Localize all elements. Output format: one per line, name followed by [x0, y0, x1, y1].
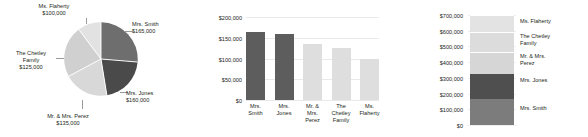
- bar-xlabel-chetley-family: The Chetley Family: [330, 103, 353, 125]
- bar-column-mr-mrs-perez: [303, 17, 322, 100]
- stack-ytick-700000: $700,000: [440, 13, 463, 19]
- pie-label-mrs-jones: Mrs. Jones $160,000: [126, 90, 186, 104]
- legend-label-mr-mrs-perez-line1: Mr. & Mrs.: [520, 53, 584, 60]
- bar-xlabel-chetley-family-line3: Family: [330, 117, 353, 124]
- legend-item-mrs-smith: Mrs. Smith: [520, 105, 584, 112]
- stack-segment-mrs-smith: [470, 99, 514, 125]
- pie-chart-panel: Ms. Flaherty $100,000 Mrs. Smith $165,00…: [0, 0, 196, 137]
- legend-label-chetley-family-line2: Family: [520, 40, 584, 47]
- bar-ytick-150000: $150,000: [219, 36, 242, 42]
- pie-label-mrs-jones-name: Mrs. Jones: [126, 90, 153, 96]
- bar-xlabel-mrs-smith: Mrs. Smith: [244, 103, 267, 125]
- legend-label-ms-flaherty: Ms. Flaherty: [520, 18, 584, 25]
- pie-label-chetley-family: The Chetley Family $125,000: [4, 50, 58, 72]
- stack-ytick-0: $0: [457, 123, 463, 129]
- pie-label-mr-mrs-perez: Mr. & Mrs. Perez $135,000: [32, 113, 104, 127]
- stack-ytick-100000: $100,000: [440, 107, 463, 113]
- bar-xlabel-mr-mrs-perez-line2: Mrs.: [301, 110, 324, 117]
- bar-xlabel-chetley-family-line2: Chetley: [330, 110, 353, 117]
- bar-chart-panel: $200,000 $150,000 $100,000 $50,000 $0: [196, 0, 392, 137]
- pie-label-chetley-family-line1: The Chetley: [16, 50, 46, 56]
- pie-label-mrs-jones-amount: $160,000: [126, 97, 186, 104]
- pie-label-mr-mrs-perez-name: Mr. & Mrs. Perez: [47, 113, 89, 119]
- bar-ms-flaherty: [360, 59, 379, 101]
- bar-xlabel-mr-mrs-perez-line1: Mr. &: [301, 103, 324, 110]
- bar-xlabel-mrs-jones-line2: Jones: [273, 110, 296, 117]
- bar-ytick-200000: $200,000: [219, 15, 242, 21]
- bar-xlabel-mrs-smith-line1: Mrs.: [244, 103, 267, 110]
- legend-item-ms-flaherty: Ms. Flaherty: [520, 18, 584, 25]
- bar-xlabel-chetley-family-line1: The: [330, 103, 353, 110]
- bar-xlabel-mrs-smith-line2: Smith: [244, 110, 267, 117]
- stacked-bar-column: [470, 15, 514, 125]
- bar-xlabel-mrs-jones-line1: Mrs.: [273, 103, 296, 110]
- legend-item-chetley-family: The Chetley Family: [520, 33, 584, 47]
- bar-xlabel-ms-flaherty-line2: Flaherty: [358, 110, 381, 117]
- stacked-bar-chart-panel: $700,000 $600,000 $500,000 $400,000 $300…: [392, 0, 588, 137]
- bar-column-mrs-jones: [275, 17, 294, 100]
- bar-chetley-family: [332, 48, 351, 100]
- bar-ytick-100000: $100,000: [219, 57, 242, 63]
- bar-column-ms-flaherty: [360, 17, 379, 100]
- legend-label-mrs-jones: Mrs. Jones: [520, 77, 584, 84]
- bar-x-axis-labels: Mrs. Smith Mrs. Jones Mr. & Mrs. Perez T…: [246, 103, 379, 125]
- stack-ytick-400000: $400,000: [440, 60, 463, 66]
- stacked-bar-legend: Ms. Flaherty The Chetley Family Mr. & Mr…: [520, 15, 584, 125]
- stack-ytick-200000: $200,000: [440, 92, 463, 98]
- pie-label-mrs-smith-name: Mrs. Smith: [132, 21, 159, 27]
- stack-segment-ms-flaherty: [470, 15, 514, 32]
- pie-label-ms-flaherty-amount: $100,000: [26, 10, 82, 17]
- pie-leader-flaherty: [86, 18, 87, 24]
- bar-gridline-0: $0: [246, 100, 379, 101]
- bar-column-chetley-family: [332, 17, 351, 100]
- bar-mrs-jones: [275, 34, 294, 100]
- stack-segment-chetley-family: [470, 32, 514, 53]
- stack-segment-mr-mrs-perez: [470, 52, 514, 74]
- pie-label-ms-flaherty: Ms. Flaherty $100,000: [26, 3, 82, 17]
- legend-label-mrs-smith: Mrs. Smith: [520, 105, 584, 112]
- stacked-bar-plot-area: $700,000 $600,000 $500,000 $400,000 $300…: [470, 15, 514, 125]
- pie-label-mrs-smith: Mrs. Smith $165,000: [132, 21, 190, 35]
- bar-xlabel-mrs-jones: Mrs. Jones: [273, 103, 296, 125]
- pie-label-chetley-family-line2: Family: [4, 57, 58, 64]
- bar-xlabel-ms-flaherty-line1: Ms.: [358, 103, 381, 110]
- bar-mrs-smith: [246, 32, 265, 101]
- pie-label-chetley-family-amount: $125,000: [4, 64, 58, 71]
- pie-leader-perez: [82, 100, 83, 109]
- bar-chart-plot-area: $200,000 $150,000 $100,000 $50,000 $0: [246, 17, 379, 100]
- bar-xlabel-ms-flaherty: Ms. Flaherty: [358, 103, 381, 125]
- legend-label-chetley-family-line1: The Chetley: [520, 33, 584, 40]
- stack-segment-mrs-jones: [470, 74, 514, 99]
- stack-gridline-0: $0: [468, 125, 516, 126]
- bar-xlabel-mr-mrs-perez: Mr. & Mrs. Perez: [301, 103, 324, 125]
- pie-label-mr-mrs-perez-amount: $135,000: [32, 120, 104, 127]
- legend-item-mrs-jones: Mrs. Jones: [520, 77, 584, 84]
- bar-ytick-0: $0: [236, 98, 242, 104]
- charts-figure: Ms. Flaherty $100,000 Mrs. Smith $165,00…: [0, 0, 588, 137]
- stack-ytick-300000: $300,000: [440, 76, 463, 82]
- pie-label-mrs-smith-amount: $165,000: [132, 28, 190, 35]
- legend-item-mr-mrs-perez: Mr. & Mrs. Perez: [520, 53, 584, 67]
- stack-ytick-600000: $600,000: [440, 29, 463, 35]
- bar-series-group: [246, 17, 379, 100]
- bar-column-mrs-smith: [246, 17, 265, 100]
- pie-label-ms-flaherty-name: Ms. Flaherty: [39, 3, 70, 9]
- bar-ytick-50000: $50,000: [222, 77, 242, 83]
- bar-mr-mrs-perez: [303, 44, 322, 100]
- stack-ytick-500000: $500,000: [440, 44, 463, 50]
- bar-xlabel-mr-mrs-perez-line3: Perez: [301, 117, 324, 124]
- legend-label-mr-mrs-perez-line2: Perez: [520, 60, 584, 67]
